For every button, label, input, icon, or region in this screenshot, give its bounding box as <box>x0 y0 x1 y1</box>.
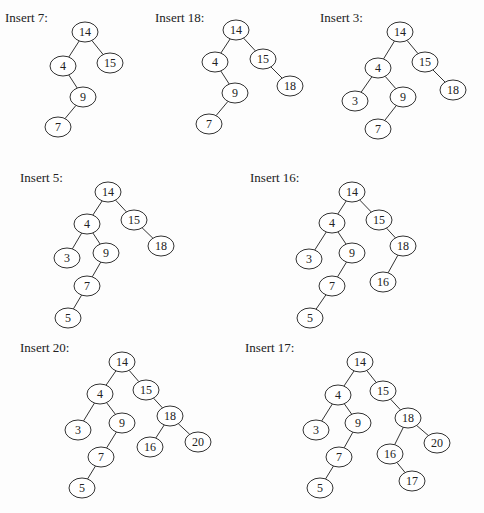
node-key: 4 <box>335 388 341 402</box>
tree-node: 14 <box>339 182 365 202</box>
tree-node: 15 <box>133 380 159 400</box>
tree-node: 4 <box>365 58 391 78</box>
tree-edge <box>315 232 327 250</box>
tree-edge <box>387 228 396 238</box>
tree-edge <box>92 40 103 54</box>
tree-node: 9 <box>390 87 416 107</box>
tree-node: 15 <box>97 53 123 73</box>
tree-node: 5 <box>69 478 95 498</box>
tree-node: 9 <box>222 83 248 103</box>
bst-insertion-figure: 1441597144151897144151839714415183975144… <box>0 0 484 513</box>
node-key: 14 <box>102 185 114 199</box>
tree-edge <box>337 262 346 277</box>
node-key: 3 <box>313 423 319 437</box>
tree-node: 18 <box>440 80 466 100</box>
tree-edge <box>385 106 397 121</box>
tree-edge <box>322 404 333 421</box>
tree-edge <box>88 466 96 479</box>
tree-node: 9 <box>70 87 96 107</box>
tree-node: 14 <box>387 22 413 42</box>
tree-panel: 144151897 <box>196 20 303 134</box>
tree-node: 4 <box>325 385 351 405</box>
node-key: 9 <box>103 246 109 260</box>
node-key: 4 <box>60 59 66 73</box>
node-key: 20 <box>192 435 204 449</box>
node-key: 3 <box>75 423 81 437</box>
node-key: 3 <box>64 251 70 265</box>
tree-panel: 14415181617203975 <box>303 352 450 498</box>
node-key: 5 <box>65 311 71 325</box>
tree-node: 20 <box>185 432 211 452</box>
tree-node: 18 <box>277 76 303 96</box>
tree-node: 3 <box>342 91 368 111</box>
node-key: 4 <box>329 216 335 230</box>
node-key: 4 <box>212 55 218 69</box>
node-key: 14 <box>230 23 242 37</box>
tree-node: 18 <box>148 236 174 256</box>
tree-node: 4 <box>50 56 76 76</box>
tree-node: 5 <box>55 308 81 328</box>
node-key: 20 <box>431 436 443 450</box>
tree-edge <box>367 371 376 383</box>
tree-panel: 144151816203975 <box>65 352 211 498</box>
node-key: 5 <box>307 311 313 325</box>
tree-node: 15 <box>366 210 392 230</box>
tree-node: 15 <box>121 210 147 230</box>
tree-panel: 1441597 <box>45 22 123 137</box>
tree-edge <box>361 77 372 92</box>
node-key: 3 <box>306 252 312 266</box>
tree-panel: 1441518163975 <box>296 182 416 328</box>
tree-node: 14 <box>72 22 98 42</box>
node-key: 9 <box>119 416 125 430</box>
node-key: 16 <box>384 447 396 461</box>
tree-edge <box>69 41 79 57</box>
node-key: 9 <box>80 90 86 104</box>
tree-node: 7 <box>365 119 391 139</box>
tree-node: 14 <box>223 20 249 40</box>
node-key: 15 <box>140 383 152 397</box>
tree-node: 18 <box>395 408 421 428</box>
tree-edge <box>338 232 346 244</box>
tree-edge <box>385 76 396 88</box>
tree-node: 7 <box>45 117 71 137</box>
panel-label: Insert 20: <box>20 340 69 356</box>
node-key: 18 <box>447 83 459 97</box>
tree-edge <box>338 201 346 214</box>
tree-edge <box>156 425 164 438</box>
tree-edge <box>93 233 100 244</box>
tree-edge <box>388 255 398 273</box>
tree-edge <box>316 295 326 309</box>
tree-node: 15 <box>250 49 276 69</box>
tree-node: 3 <box>296 249 322 269</box>
tree-edge <box>326 466 334 479</box>
tree-node: 14 <box>95 182 121 202</box>
node-key: 15 <box>257 52 269 66</box>
tree-edge <box>360 200 372 212</box>
panel-label: Insert 18: <box>155 10 204 26</box>
node-key: 7 <box>84 279 90 293</box>
tree-edge <box>73 295 81 309</box>
tree-node: 7 <box>326 447 352 467</box>
tree-node: 9 <box>339 243 365 263</box>
node-key: 14 <box>394 25 406 39</box>
tree-node: 18 <box>390 236 416 256</box>
tree-edge <box>397 462 405 472</box>
tree-node: 4 <box>87 384 113 404</box>
tree-node: 4 <box>202 52 228 72</box>
node-key: 16 <box>144 440 156 454</box>
node-key: 14 <box>116 355 128 369</box>
tree-node: 15 <box>370 381 396 401</box>
node-key: 7 <box>98 450 104 464</box>
tree-node: 16 <box>377 444 403 464</box>
tree-node: 15 <box>412 52 438 72</box>
panel-label: Insert 7: <box>5 10 48 26</box>
tree-edge <box>129 370 139 381</box>
panel-label: Insert 5: <box>20 170 63 186</box>
tree-edge <box>69 75 77 88</box>
tree-node: 7 <box>88 447 114 467</box>
tree-edge <box>92 262 100 277</box>
tree-edge <box>384 41 395 59</box>
tree-node: 5 <box>307 478 333 498</box>
tree-edge <box>106 371 116 385</box>
tree-edge <box>417 425 429 435</box>
